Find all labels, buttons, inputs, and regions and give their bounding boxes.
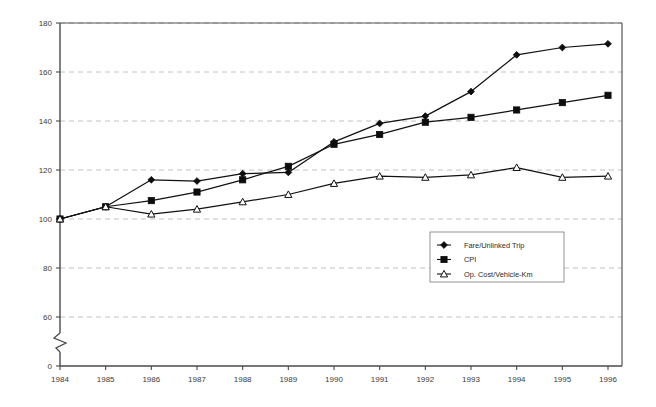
y-tick-label-160: 160 (39, 68, 53, 77)
x-tick-label-1994: 1994 (508, 375, 526, 384)
y-tick-label-120: 120 (39, 166, 53, 175)
data-point-marker (513, 164, 520, 171)
data-point-marker (559, 100, 565, 106)
y-tick-label-180: 180 (39, 19, 53, 28)
series-2 (57, 92, 611, 222)
legend-label-1: Fare/Unlinked Trip (464, 241, 524, 250)
data-point-marker (605, 92, 611, 98)
data-point-marker (285, 163, 291, 169)
x-tick-label-1984: 1984 (51, 375, 69, 384)
y-tick-label-80: 80 (43, 264, 52, 273)
x-tick-label-1989: 1989 (279, 375, 297, 384)
x-tick-label-1995: 1995 (553, 375, 571, 384)
chart-legend: Fare/Unlinked TripCPIOp. Cost/Vehicle-Km (430, 232, 564, 282)
data-point-marker (514, 107, 520, 113)
data-point-marker (605, 40, 612, 47)
data-point-marker (331, 141, 337, 147)
chart-container: 06080100120140160180 1984198519861987198… (0, 0, 656, 407)
x-tick-label-1985: 1985 (97, 375, 115, 384)
plot-frame (54, 23, 622, 366)
series-line (60, 95, 608, 219)
x-tick-label-1988: 1988 (234, 375, 252, 384)
x-tick-label-1992: 1992 (416, 375, 434, 384)
data-point-marker (468, 114, 474, 120)
x-tick-label-1996: 1996 (599, 375, 617, 384)
x-tick-label-1987: 1987 (188, 375, 206, 384)
data-point-marker (441, 256, 447, 262)
data-point-marker (239, 170, 246, 177)
y-tick-label-60: 60 (43, 313, 52, 322)
data-series (56, 40, 611, 222)
data-point-marker (148, 198, 154, 204)
x-tick-label-1993: 1993 (462, 375, 480, 384)
y-axis-ticks: 06080100120140160180 (39, 19, 60, 371)
data-point-marker (422, 119, 428, 125)
data-point-marker (194, 178, 201, 185)
x-tick-label-1986: 1986 (142, 375, 160, 384)
series-line (60, 168, 608, 219)
data-point-marker (422, 113, 429, 120)
series-1 (57, 40, 612, 222)
y-tick-label-0: 0 (48, 362, 53, 371)
x-tick-label-1990: 1990 (325, 375, 343, 384)
y-tick-label-140: 140 (39, 117, 53, 126)
data-point-marker (194, 189, 200, 195)
data-point-marker (240, 177, 246, 183)
legend-label-2: CPI (464, 255, 476, 264)
x-tick-label-1991: 1991 (371, 375, 389, 384)
line-chart: 06080100120140160180 1984198519861987198… (0, 0, 656, 407)
series-3 (56, 164, 611, 222)
data-point-marker (377, 131, 383, 137)
y-axis-break-symbol (54, 333, 66, 352)
legend-label-3: Op. Cost/Vehicle-Km (464, 270, 533, 279)
series-line (60, 44, 608, 219)
data-point-marker (148, 176, 155, 183)
y-tick-label-100: 100 (39, 215, 53, 224)
x-axis-ticks: 1984198519861987198819891990199119921993… (51, 366, 617, 384)
data-point-marker (559, 44, 566, 51)
